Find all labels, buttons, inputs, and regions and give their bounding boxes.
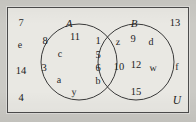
venn-element-outside: f — [175, 63, 178, 73]
venn-element-b-only: 10 — [114, 63, 125, 74]
venn-element-a-only: a — [57, 76, 61, 86]
venn-element-b-only: d — [149, 38, 154, 48]
venn-element-b-only: w — [149, 64, 156, 74]
venn-element-a-only: y — [72, 88, 77, 98]
venn-element-intersection: 5 — [95, 51, 100, 62]
set-b-label: B — [131, 18, 138, 29]
venn-element-intersection: 1 — [95, 37, 100, 48]
venn-element-a-only: 8 — [42, 37, 47, 48]
venn-element-a-only: 3 — [41, 64, 46, 75]
venn-element-a-only: 11 — [70, 33, 80, 44]
venn-element-b-only: 15 — [131, 88, 142, 99]
venn-diagram-figure: A B U 7e14413f811c3ay156bz9d1012w15 — [0, 0, 196, 122]
venn-element-outside: 4 — [18, 94, 23, 105]
venn-element-outside: 14 — [16, 67, 27, 78]
universal-set-label: U — [173, 95, 181, 107]
venn-element-b-only: z — [116, 38, 120, 48]
venn-element-outside: e — [18, 41, 22, 51]
venn-element-a-only: c — [58, 50, 62, 60]
set-a-label: A — [66, 18, 73, 29]
venn-element-intersection: b — [96, 77, 101, 87]
venn-element-b-only: 9 — [130, 35, 135, 46]
venn-element-intersection: 6 — [95, 64, 100, 75]
venn-element-outside: 7 — [18, 19, 23, 30]
venn-element-b-only: 12 — [131, 61, 142, 72]
venn-element-outside: 13 — [170, 19, 181, 30]
